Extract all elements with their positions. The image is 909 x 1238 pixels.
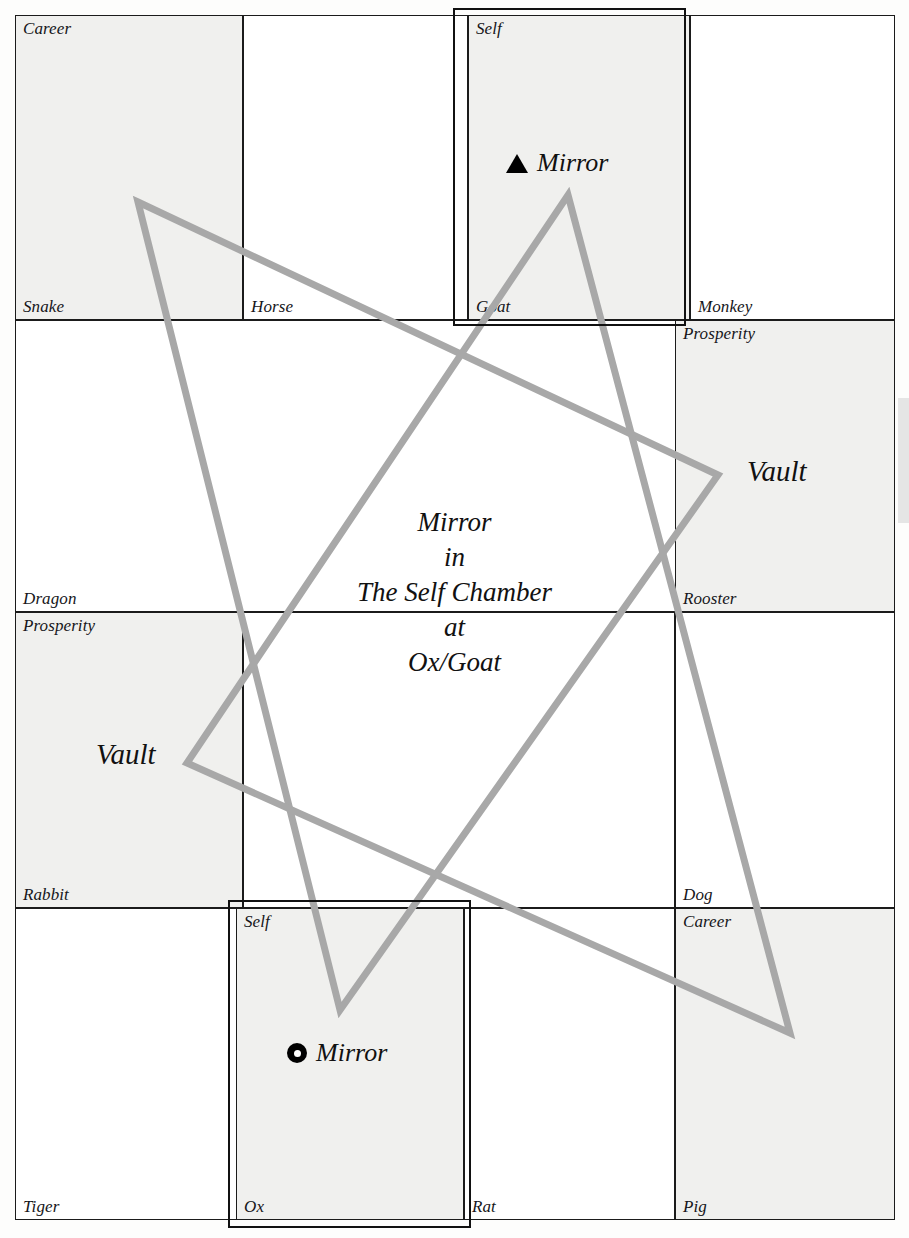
ring-dot-icon <box>287 1043 307 1063</box>
zodiac-chamber-chart: Career Snake Horse Self Goat Monkey Drag… <box>0 0 909 1238</box>
marker-label-mirror-goat: Mirror <box>537 150 608 176</box>
cell-bottom-label-dragon: Dragon <box>23 589 77 609</box>
cell-top-label-prosperity-rooster: Prosperity <box>683 324 755 344</box>
cell-tiger[interactable]: Tiger <box>15 908 243 1220</box>
cell-bottom-label-tiger: Tiger <box>23 1197 59 1217</box>
cell-bottom-label-snake: Snake <box>23 297 64 317</box>
cell-horse[interactable]: Horse <box>243 15 468 320</box>
cell-bottom-label-dog: Dog <box>683 885 713 905</box>
cell-career-pig[interactable]: Career Pig <box>675 908 895 1220</box>
cell-top-label-career-pig: Career <box>683 912 731 932</box>
cell-dragon[interactable]: Dragon <box>15 320 690 612</box>
cell-bottom-label-pig: Pig <box>683 1197 707 1217</box>
cell-monkey[interactable]: Monkey <box>690 15 895 320</box>
cell-bottom-label-horse: Horse <box>251 297 293 317</box>
cell-rat[interactable]: Rat <box>464 908 675 1220</box>
marker-label-mirror-ox: Mirror <box>316 1040 387 1066</box>
cell-career-snake[interactable]: Career Snake <box>15 15 243 320</box>
cell-top-label-prosperity-rabbit: Prosperity <box>23 616 95 636</box>
marker-mirror-goat[interactable]: Mirror <box>506 150 608 176</box>
cell-top-label-career: Career <box>23 19 71 39</box>
filled-triangle-icon <box>506 154 528 173</box>
cell-bottom-label-rabbit: Rabbit <box>23 885 69 905</box>
cell-bottom-label-ox: Ox <box>244 1197 264 1217</box>
cell-center-area <box>243 612 675 908</box>
cell-bottom-label-goat: Goat <box>476 297 510 317</box>
cell-bottom-label-monkey: Monkey <box>698 297 752 317</box>
vault-label-left: Vault <box>96 738 156 771</box>
vault-label-right: Vault <box>747 455 807 488</box>
cell-top-label-self-ox: Self <box>244 912 270 932</box>
cell-top-label-self-goat: Self <box>476 19 502 39</box>
scan-edge-artifact <box>898 398 909 523</box>
cell-bottom-label-rooster: Rooster <box>683 589 737 609</box>
cell-bottom-label-rat: Rat <box>472 1197 496 1217</box>
cell-dog[interactable]: Dog <box>675 612 895 908</box>
marker-mirror-ox[interactable]: Mirror <box>287 1040 387 1066</box>
